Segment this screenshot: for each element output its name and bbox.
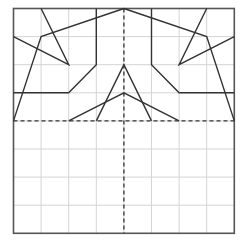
grid-diagram [0,0,249,248]
left-inner-bracket [14,9,97,93]
right-inner-bracket [152,9,235,93]
